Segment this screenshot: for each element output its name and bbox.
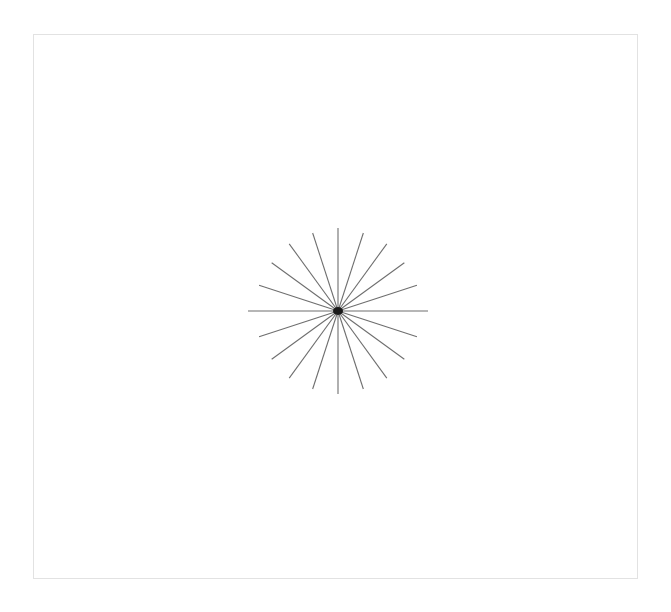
starburst-figure <box>0 0 671 612</box>
ray-7 <box>289 244 338 311</box>
ray-8 <box>272 263 338 311</box>
ray-12 <box>272 311 338 359</box>
ray-3 <box>338 244 387 311</box>
ray-17 <box>338 311 387 378</box>
center-hub <box>333 307 343 315</box>
figure-canvas <box>0 0 671 612</box>
ray-13 <box>289 311 338 378</box>
ray-18 <box>338 311 404 359</box>
ray-16 <box>338 311 363 389</box>
ray-14 <box>313 311 338 389</box>
ray-19 <box>338 311 417 337</box>
ray-4 <box>338 233 363 311</box>
ray-9 <box>259 285 338 311</box>
center-hub-dot <box>333 307 343 315</box>
ray-2 <box>338 263 404 311</box>
ray-1 <box>338 285 417 311</box>
ray-11 <box>259 311 338 337</box>
ray-6 <box>313 233 338 311</box>
